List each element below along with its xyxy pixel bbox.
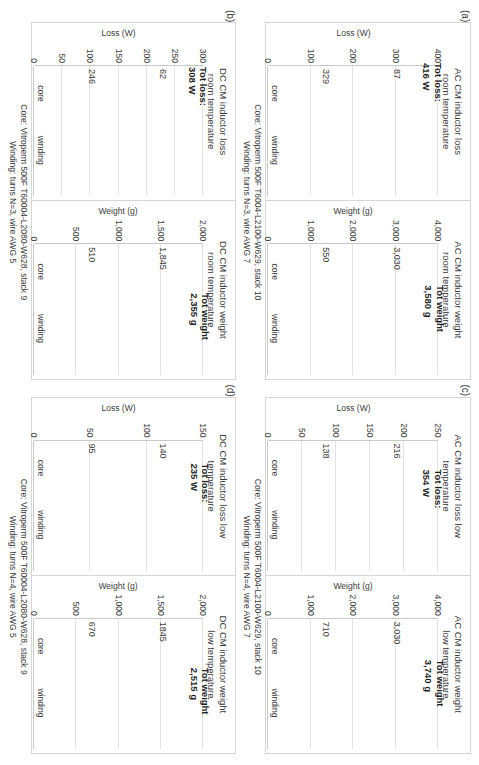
y-axis-ticks: 4003002001000 [269, 39, 439, 65]
y-axis-ticks: 150100500 [34, 414, 204, 440]
bar-slot: 87 [374, 66, 421, 79]
plot-area: Loss (W) 250200150100500 216138 [269, 402, 439, 571]
caption-core: Core: Vitroperm 500F T60004-L2080-W628, … [18, 22, 29, 383]
y-tick-label: 4,000 [433, 220, 443, 241]
y-axis-label: Loss (W) [269, 27, 439, 39]
total-annotation: Tot weight 3,740 g [423, 660, 446, 707]
y-tick-label: 50 [57, 54, 67, 63]
total-annotation: Tot weight 2,515 g [189, 668, 212, 715]
bar-slot: 329 [302, 66, 349, 84]
plot-area: Loss (W) 150100500 14095 [34, 402, 204, 571]
bar-slot: 550 [302, 244, 349, 262]
bar-value-label: 1,845 [158, 247, 168, 270]
gridline [90, 66, 91, 196]
chart-title: DC CM inductor weight room temperature [206, 205, 230, 374]
category-labels: corewinding [269, 614, 281, 749]
bar-slot: 670 [68, 619, 115, 637]
bars-container: 14095 [34, 440, 204, 571]
caption-winding: Winding: turns N=3, wire AWG 7 [242, 22, 253, 383]
total-annotation: Tot loss: 416 W [421, 63, 444, 102]
gridline [118, 619, 119, 749]
bar-slot: 3,030 [374, 244, 421, 270]
y-tick-label: 200 [142, 49, 152, 63]
bar-value-label: 246 [87, 69, 97, 84]
plot-area: Weight (g) 2,0001,5001,0005000 1845670 [34, 580, 204, 749]
bar-slot: 95 [68, 441, 115, 454]
bar-slot: 1,845 [139, 244, 186, 270]
panel-label-d: (d) [226, 385, 237, 397]
category-label: core [36, 460, 46, 477]
category-label: winding [271, 136, 281, 165]
gridline [203, 441, 204, 571]
y-tick-label: 3,000 [391, 594, 401, 615]
gridline [118, 244, 119, 374]
y-tick-label: 250 [170, 49, 180, 63]
y-tick-label: 3,000 [391, 220, 401, 241]
caption-core: Core: Vitroperm 500F T6004-L2100-W629, s… [253, 397, 264, 758]
chart-ac-loss-room: AC CM inductor loss room temperature Los… [267, 23, 471, 200]
bar-value-label: 710 [321, 622, 331, 637]
gridline [352, 66, 353, 196]
gridline [369, 441, 370, 571]
panel-a-charts: AC CM inductor loss room temperature Los… [266, 22, 472, 380]
panel-d-caption: Core: Vitroperm 500F T60004-L2080-W628, … [4, 397, 31, 758]
y-tick-label: 1,500 [156, 594, 166, 615]
bar-slot: 710 [302, 619, 349, 637]
plot-area: Weight (g) 2,0001,5001,0005000 1,845510 [34, 205, 204, 374]
bar-value-label: 1845 [158, 622, 168, 642]
category-labels: corewinding [269, 436, 281, 571]
category-label: winding [36, 136, 46, 165]
y-tick-label: 100 [142, 423, 152, 437]
y-tick-label: 250 [433, 423, 443, 437]
y-tick-label: 150 [365, 423, 375, 437]
category-label: core [271, 638, 281, 655]
y-tick-label: 200 [348, 49, 358, 63]
bar-value-label: 87 [392, 69, 402, 79]
panel-label-b: (b) [226, 10, 237, 22]
chart-dc-loss-low: DC CM inductor loss low temperature Loss… [32, 398, 236, 575]
y-tick-label: 100 [86, 49, 96, 63]
y-tick-label: 1,000 [306, 594, 316, 615]
bar-value-label: 3,030 [392, 622, 402, 645]
y-tick-label: 300 [391, 49, 401, 63]
y-axis-label: Loss (W) [34, 402, 204, 414]
y-axis-label: Weight (g) [269, 205, 439, 217]
y-tick-label: 400 [433, 49, 443, 63]
y-tick-label: 50 [297, 428, 307, 437]
category-label: core [36, 85, 46, 102]
bar-slot: 3,030 [374, 619, 421, 645]
panel-a: (a) AC CM inductor loss room temperature… [239, 8, 474, 383]
panel-a-caption: Core: Vitroperm 500F T6004-L2100-W629, s… [239, 22, 266, 383]
panel-b: (b) DC CM inductor loss room temperature… [4, 8, 239, 383]
category-labels: corewinding [269, 61, 281, 196]
bar-slot: 216 [374, 441, 421, 459]
bar-value-label: 138 [321, 444, 331, 459]
bar-slot: 1845 [139, 619, 186, 642]
gridline [146, 441, 147, 571]
bars-container: 1,845510 [34, 243, 204, 374]
bar-value-label: 62 [158, 69, 168, 79]
chart-title: AC CM inductor loss room temperature [440, 27, 464, 196]
caption-winding: Winding: turns N=3, wire AWG 5 [7, 22, 18, 383]
caption-winding: Winding: turns N=4, wire AWG 5 [7, 397, 18, 758]
gridline [310, 66, 311, 196]
gridline [352, 244, 353, 374]
bar-value-label: 216 [392, 444, 402, 459]
chart-dc-loss-room: DC CM inductor loss room temperature Los… [32, 23, 236, 200]
total-annotation: Tot weight 2,355 g [189, 293, 212, 340]
panel-c-charts: AC CM inductor loss low temperature Loss… [266, 397, 472, 755]
y-tick-label: 50 [86, 428, 96, 437]
y-tick-label: 1,500 [156, 220, 166, 241]
plot-area: Loss (W) 4003002001000 87329 [269, 27, 439, 196]
bar-slot: 62 [139, 66, 186, 79]
category-labels: corewinding [34, 614, 46, 749]
gridline [403, 441, 404, 571]
gridline [90, 441, 91, 571]
y-axis-ticks: 300250200150100500 [34, 39, 204, 65]
bars-container: 87329 [269, 65, 439, 196]
chart-title: DC CM inductor loss room temperature [206, 27, 230, 196]
y-axis-ticks: 250200150100500 [269, 414, 439, 440]
bars-container: 3,030550 [269, 243, 439, 374]
gridline [75, 244, 76, 374]
plot-area: Weight (g) 4,0003,0002,0001,0000 3,03055… [269, 205, 439, 374]
